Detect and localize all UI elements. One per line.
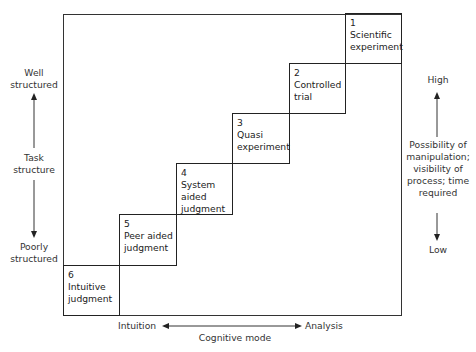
down-arrow-icon bbox=[434, 234, 440, 241]
left-axis-title: Task structure bbox=[4, 152, 64, 176]
label-line: Low bbox=[407, 244, 469, 256]
label-line: process; time bbox=[401, 175, 475, 187]
right-arrow-icon bbox=[295, 323, 302, 329]
up-arrow-icon bbox=[434, 92, 440, 99]
label-line: structured bbox=[4, 79, 64, 91]
label-line: manipulation; bbox=[401, 151, 475, 163]
label-line: Task bbox=[4, 152, 64, 164]
right-axis-bottom-label: Low bbox=[407, 244, 469, 256]
left-axis-bottom-label: Poorly structured bbox=[4, 241, 64, 265]
label-line: structured bbox=[4, 253, 64, 265]
label-line: Possibility of bbox=[401, 139, 475, 151]
left-arrow-icon bbox=[162, 323, 169, 329]
right-axis-top-label: High bbox=[407, 74, 469, 86]
bottom-axis-title: Cognitive mode bbox=[190, 332, 280, 344]
label-line: required bbox=[401, 187, 475, 199]
label-line: Poorly bbox=[4, 241, 64, 253]
down-arrow-icon bbox=[31, 231, 37, 238]
bottom-axis-left-label: Intuition bbox=[118, 320, 162, 332]
left-axis-top-label: Well structured bbox=[4, 67, 64, 91]
label-line: structure bbox=[4, 164, 64, 176]
bottom-axis-right-label: Analysis bbox=[305, 320, 355, 332]
label-line: High bbox=[407, 74, 469, 86]
label-line: visibility of bbox=[401, 163, 475, 175]
right-axis-title: Possibility of manipulation; visibility … bbox=[401, 139, 475, 199]
label-line: Well bbox=[4, 67, 64, 79]
up-arrow-icon bbox=[31, 93, 37, 100]
